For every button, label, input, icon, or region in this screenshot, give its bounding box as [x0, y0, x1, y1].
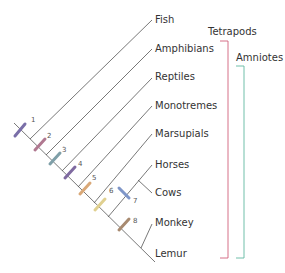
marker-label-4: 4 [78, 161, 82, 168]
taxon-reptiles: Reptiles [155, 72, 195, 82]
taxon-horses: Horses [155, 160, 189, 170]
taxon-lemur: Lemur [155, 249, 187, 259]
marker-label-8: 8 [133, 218, 137, 225]
group-amniotes: Amniotes [236, 53, 283, 63]
marker-label-2: 2 [47, 133, 51, 140]
marker-label-5: 5 [92, 175, 96, 182]
marker-label-7: 7 [133, 198, 137, 205]
taxon-fish: Fish [155, 15, 174, 25]
marker-label-6: 6 [109, 188, 113, 195]
taxon-monkey: Monkey [155, 218, 194, 228]
taxon-cows: Cows [155, 188, 182, 198]
taxon-marsupials: Marsupials [155, 129, 209, 139]
cladogram-lines [0, 0, 285, 273]
group-tetrapods: Tetrapods [208, 27, 257, 37]
taxon-monotremes: Monotremes [155, 101, 217, 111]
marker-label-1: 1 [31, 117, 35, 124]
taxon-amphibians: Amphibians [155, 44, 214, 54]
marker-label-3: 3 [62, 147, 66, 154]
